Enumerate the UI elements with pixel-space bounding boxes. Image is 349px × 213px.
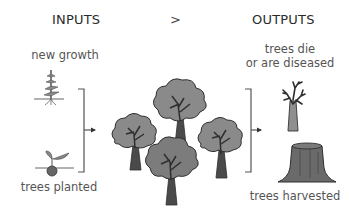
diagram-graphics [0,0,349,213]
tree-icon [145,137,198,205]
seed-sprouting-icon [35,151,74,176]
output-arrow-icon [257,128,262,133]
tree-stump-icon [278,143,336,182]
tree-icon [198,117,242,178]
forest-trees-icon [112,79,242,205]
input-arrow-icon [91,128,96,133]
plant-sprout-icon [34,70,64,105]
dead-tree-icon [283,82,305,131]
